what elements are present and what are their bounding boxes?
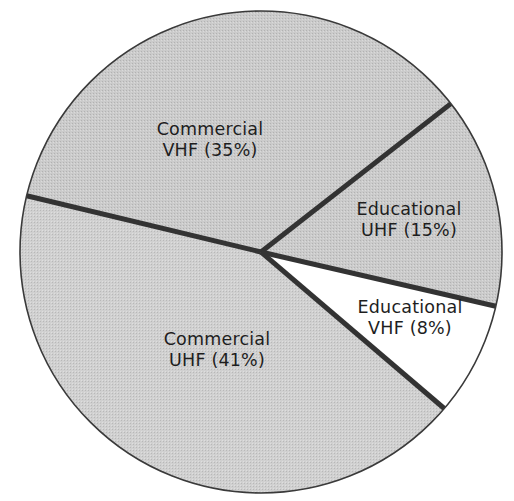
- label-line2: VHF (8%): [358, 318, 463, 339]
- label-line1: Educational: [357, 199, 462, 220]
- label-line1: Commercial: [157, 119, 264, 140]
- label-line1: Commercial: [164, 329, 271, 350]
- label-line2: UHF (41%): [164, 350, 271, 371]
- pie-chart: [0, 0, 514, 501]
- label-commercial-vhf: Commercial VHF (35%): [157, 119, 264, 161]
- label-commercial-uhf: Commercial UHF (41%): [164, 329, 271, 371]
- label-line1: Educational: [358, 297, 463, 318]
- label-line2: UHF (15%): [357, 220, 462, 241]
- label-line2: VHF (35%): [157, 140, 264, 161]
- label-educational-uhf: Educational UHF (15%): [357, 199, 462, 241]
- label-educational-vhf: Educational VHF (8%): [358, 297, 463, 339]
